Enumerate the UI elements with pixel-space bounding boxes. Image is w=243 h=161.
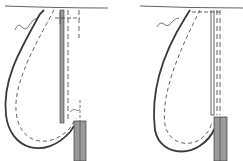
right-diagram — [140, 6, 243, 161]
diagram-canvas — [0, 0, 243, 161]
diagram-svg — [0, 0, 243, 161]
left-diagram — [5, 6, 108, 161]
